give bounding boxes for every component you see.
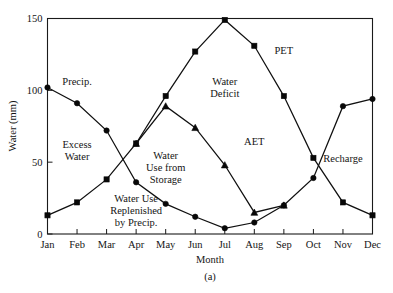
x-tick-label: Jun — [188, 239, 203, 250]
data-point-marker — [45, 85, 50, 90]
data-point-marker — [252, 43, 257, 48]
data-point-marker — [162, 103, 169, 109]
y-axis-ticks: 050100150 — [27, 13, 53, 240]
data-point-marker — [163, 93, 168, 98]
x-tick-label: Jul — [219, 239, 231, 250]
annotation-label: WaterUse fromStorage — [146, 150, 185, 185]
x-axis-title: Month — [196, 254, 225, 265]
annotation-label: Water UseReplenishedby Precip. — [110, 193, 163, 228]
annotation-label: PET — [275, 45, 294, 56]
y-tick-label: 0 — [37, 229, 42, 240]
x-tick-label: Oct — [306, 239, 321, 250]
annotation-label: Recharge — [323, 153, 363, 164]
annotation-label: WaterDeficit — [210, 76, 239, 99]
water-balance-chart: 050100150 JanFebMarAprMayJunJulAugSepOct… — [0, 0, 393, 293]
x-tick-label: Mar — [98, 239, 116, 250]
data-point-marker — [163, 201, 168, 206]
y-tick-label: 100 — [27, 85, 43, 96]
data-point-marker — [45, 213, 50, 218]
x-tick-label: Feb — [69, 239, 85, 250]
data-point-marker — [311, 175, 316, 180]
plot-frame — [48, 19, 373, 235]
data-point-marker — [340, 200, 345, 205]
data-point-marker — [281, 93, 286, 98]
data-point-marker — [311, 155, 316, 160]
data-point-marker — [222, 226, 227, 231]
y-axis-title: Water (mm) — [7, 100, 19, 151]
data-point-marker — [370, 96, 375, 101]
y-tick-label: 50 — [32, 157, 43, 168]
data-point-marker — [193, 49, 198, 54]
data-point-marker — [222, 17, 227, 22]
x-tick-label: Aug — [245, 239, 264, 250]
x-tick-label: Sep — [276, 239, 292, 250]
data-point-marker — [104, 128, 109, 133]
annotation-group: Precip.ExcessWaterWater UseReplenishedby… — [62, 45, 363, 228]
data-point-marker — [193, 214, 198, 219]
data-point-marker — [370, 213, 375, 218]
annotation-label: ExcessWater — [62, 139, 91, 162]
data-point-marker — [104, 177, 109, 182]
data-point-marker — [74, 101, 79, 106]
data-point-marker — [340, 103, 345, 108]
y-tick-label: 150 — [27, 13, 43, 24]
series-pet — [45, 17, 375, 218]
x-axis-ticks: JanFebMarAprMayJunJulAugSepOctNovDec — [41, 229, 382, 250]
x-tick-label: Apr — [128, 239, 145, 250]
series-line — [48, 20, 373, 215]
data-point-marker — [133, 180, 138, 185]
annotation-label: Precip. — [62, 76, 91, 87]
x-tick-label: Dec — [364, 239, 381, 250]
data-series-group — [45, 17, 375, 231]
data-point-marker — [252, 220, 257, 225]
x-tick-label: May — [156, 239, 176, 250]
plot-border — [48, 19, 373, 235]
chart-figure: 050100150 JanFebMarAprMayJunJulAugSepOct… — [0, 0, 393, 293]
data-point-marker — [74, 200, 79, 205]
x-tick-label: Jan — [41, 239, 56, 250]
figure-caption: (a) — [204, 271, 216, 283]
annotation-label: AET — [244, 136, 265, 147]
x-tick-label: Nov — [334, 239, 353, 250]
